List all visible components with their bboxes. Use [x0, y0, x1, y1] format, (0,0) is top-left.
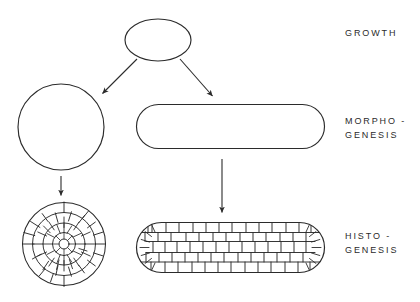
arrow-growth-to-circle [103, 59, 138, 94]
morphogenesis-stage-shapes [18, 84, 325, 170]
stage-label-growth: GROWTH [345, 26, 397, 40]
cell-rect-internal-walls [140, 223, 321, 273]
histogenesis-cellular-rect [137, 223, 325, 273]
downward-arrows [61, 159, 222, 213]
left-plain-circle [18, 84, 104, 170]
diverging-arrows [103, 59, 213, 96]
stage-label-morphogenesis-line1: MORPHO - [345, 114, 406, 128]
top-ellipse [125, 19, 191, 61]
stage-label-morphogenesis: MORPHO - GENESIS [345, 114, 406, 142]
cell-circle-spokes-ring4 [53, 233, 76, 256]
stage-label-histogenesis-line1: HISTO - [345, 229, 398, 243]
stage-label-growth-line1: GROWTH [345, 26, 397, 40]
arrow-growth-to-rect [180, 59, 213, 96]
stage-label-histogenesis: HISTO - GENESIS [345, 229, 398, 257]
right-plain-rounded-rect [137, 105, 325, 149]
stage-label-morphogenesis-line2: GENESIS [345, 128, 406, 142]
stage-label-histogenesis-line2: GENESIS [345, 243, 398, 257]
growth-stage-shape [125, 19, 191, 61]
histogenesis-cellular-circle [23, 202, 106, 287]
